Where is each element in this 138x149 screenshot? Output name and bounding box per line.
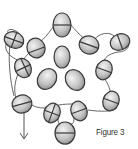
bead-group: [2, 13, 132, 144]
arrow-down-icon: [20, 112, 28, 139]
figure-caption: Figure 3: [96, 126, 124, 137]
